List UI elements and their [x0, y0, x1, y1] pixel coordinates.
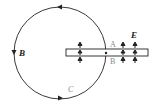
- left-arrow-icon: [12, 50, 17, 55]
- e-arrows-col-1: [78, 42, 82, 63]
- label-curve-c: C: [68, 85, 74, 94]
- label-e-field: E: [130, 30, 137, 40]
- diagram-canvas: B E A B C: [0, 0, 164, 109]
- e-arrows-col-3: [133, 42, 137, 63]
- label-b-field: B: [18, 48, 25, 58]
- bottom-arrow-icon: [58, 96, 63, 101]
- label-point-a: A: [110, 40, 116, 49]
- top-arrow-icon: [57, 5, 62, 10]
- label-point-b: B: [110, 57, 115, 66]
- e-arrows-col-2: [121, 42, 125, 63]
- intersection-dot: [105, 52, 107, 54]
